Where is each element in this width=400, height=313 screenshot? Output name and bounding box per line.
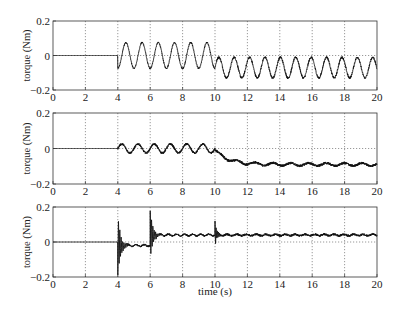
x-axis-label: time (s) <box>198 285 232 298</box>
y-tick-label: −0.2 <box>30 271 50 283</box>
x-tick-label: 8 <box>180 185 186 197</box>
y-tick-label: 0 <box>45 236 51 248</box>
x-tick-label: 12 <box>242 278 253 290</box>
x-tick-label: 12 <box>242 185 253 197</box>
x-tick-label: 20 <box>372 185 384 197</box>
y-tick-label: −0.2 <box>30 178 50 190</box>
x-tick-label: 18 <box>339 91 351 103</box>
panel-bottom: 024681012141618200.20−0.2torque (Nm) <box>21 201 383 290</box>
x-tick-label: 16 <box>307 185 319 197</box>
x-tick-label: 14 <box>274 91 286 103</box>
y-axis-label: torque (Nm) <box>21 29 33 82</box>
x-tick-label: 8 <box>180 91 186 103</box>
x-tick-label: 20 <box>372 91 384 103</box>
figure: 024681012141618200.20−0.2torque (Nm) 024… <box>0 0 400 313</box>
y-tick-label: 0 <box>45 143 51 155</box>
x-tick-label: 8 <box>180 278 186 290</box>
x-tick-label: 10 <box>210 185 222 197</box>
x-tick-label: 2 <box>83 185 89 197</box>
x-tick-label: 4 <box>115 91 121 103</box>
x-tick-label: 14 <box>274 278 286 290</box>
x-tick-label: 20 <box>372 278 384 290</box>
x-tick-label: 4 <box>115 278 121 290</box>
x-tick-label: 6 <box>147 91 153 103</box>
y-tick-label: −0.2 <box>30 84 50 96</box>
x-tick-label: 12 <box>242 91 253 103</box>
panel-middle: 024681012141618200.20−0.2torque (Nm) <box>21 107 383 197</box>
y-tick-label: 0.2 <box>36 107 50 119</box>
x-tick-label: 4 <box>115 185 121 197</box>
x-tick-label: 2 <box>83 278 89 290</box>
x-tick-label: 16 <box>307 91 319 103</box>
y-tick-label: 0.2 <box>36 201 50 213</box>
x-tick-label: 10 <box>210 91 222 103</box>
x-tick-label: 6 <box>147 185 153 197</box>
y-axis-label: torque (Nm) <box>21 122 33 175</box>
x-tick-label: 0 <box>50 91 56 103</box>
x-tick-label: 18 <box>339 278 351 290</box>
x-tick-label: 0 <box>50 185 56 197</box>
y-tick-label: 0 <box>45 50 51 62</box>
x-tick-label: 0 <box>50 278 56 290</box>
x-tick-label: 16 <box>307 278 319 290</box>
y-tick-label: 0.2 <box>36 15 50 27</box>
panel-top: 024681012141618200.20−0.2torque (Nm) <box>21 15 383 103</box>
x-tick-label: 6 <box>147 278 153 290</box>
x-tick-label: 2 <box>83 91 89 103</box>
y-axis-label: torque (Nm) <box>21 215 33 268</box>
x-tick-label: 18 <box>339 185 351 197</box>
x-tick-label: 14 <box>274 185 286 197</box>
